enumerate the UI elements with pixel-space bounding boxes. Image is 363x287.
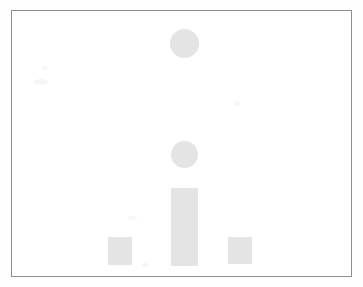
plot-frame	[11, 10, 352, 277]
scan-speckle	[42, 66, 47, 70]
scan-speckle	[128, 216, 137, 220]
bar-right	[228, 237, 252, 264]
scan-speckle	[34, 79, 48, 85]
marker-lower-circle	[171, 141, 198, 168]
scan-speckle	[234, 101, 240, 106]
scan-speckle	[142, 263, 148, 267]
marker-upper-circle	[170, 29, 199, 58]
scanned-page	[0, 0, 363, 287]
plot-area	[12, 11, 351, 276]
bar-left	[108, 237, 132, 265]
bar-center	[171, 188, 198, 266]
